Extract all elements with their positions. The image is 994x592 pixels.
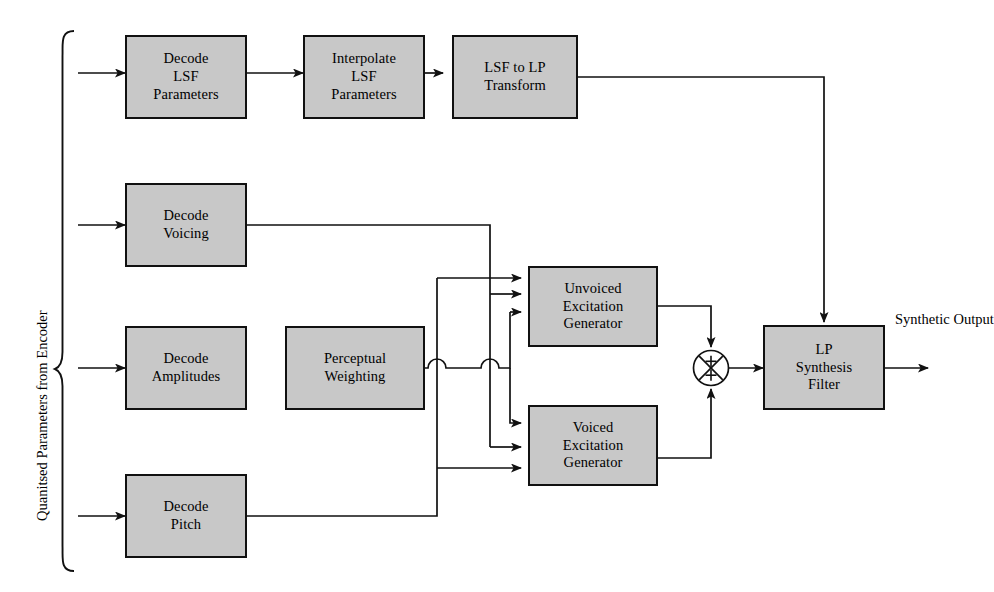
block-line: Unvoiced [564,280,621,298]
wire-unvoiced-to-sum [658,306,711,347]
block-line: Decode [164,498,209,516]
block-line: Voicing [163,225,209,243]
block-interpolate-lsf[interactable]: Interpolate LSF Parameters [303,35,425,119]
block-line: Pitch [171,516,201,534]
block-line: Interpolate [332,50,396,68]
block-line: LSF [173,68,198,86]
block-line: Parameters [331,86,396,104]
block-line: Decode [164,50,209,68]
block-line: Voiced [573,419,614,437]
block-line: Synthesis [796,359,853,377]
block-lp-synthesis-filter[interactable]: LP Synthesis Filter [763,325,885,410]
input-brace [55,31,74,571]
synthetic-output-line1: Synthetic [895,311,950,327]
block-line: Excitation [563,298,624,316]
input-bus-label: Quanitsed Parameters from Encoder [34,310,51,521]
block-decode-lsf[interactable]: Decode LSF Parameters [125,35,247,119]
block-line: Transform [484,77,546,95]
block-line: Filter [808,376,840,394]
block-line: Perceptual [324,350,386,368]
block-line: LSF to LP [484,59,545,77]
wire-voiced-to-sum [658,389,711,458]
input-bus-label-text: Quanitsed Parameters from Encoder [34,310,50,521]
block-unvoiced-excitation-generator[interactable]: Unvoiced Excitation Generator [528,266,658,347]
block-decode-voicing[interactable]: Decode Voicing [125,183,247,267]
block-decode-amplitudes[interactable]: Decode Amplitudes [125,326,247,410]
block-lsf-to-lp-transform[interactable]: LSF to LP Transform [452,35,578,119]
block-line: Decode [164,350,209,368]
block-line: LP [815,341,832,359]
block-line: Parameters [153,86,218,104]
block-line: Excitation [563,437,624,455]
synthetic-output-line2: Output [953,311,993,327]
block-line: Weighting [325,368,386,386]
block-line: Decode [164,207,209,225]
block-line: Generator [564,454,623,472]
block-decode-pitch[interactable]: Decode Pitch [125,474,247,558]
block-line: LSF [351,68,376,86]
block-line: Amplitudes [152,368,221,386]
block-perceptual-weighting[interactable]: Perceptual Weighting [285,326,425,410]
block-voiced-excitation-generator[interactable]: Voiced Excitation Generator [528,405,658,486]
wire-weighting-to-voiced [510,368,521,423]
synthetic-output-label: Synthetic Output [895,311,985,329]
block-line: Generator [564,315,623,333]
